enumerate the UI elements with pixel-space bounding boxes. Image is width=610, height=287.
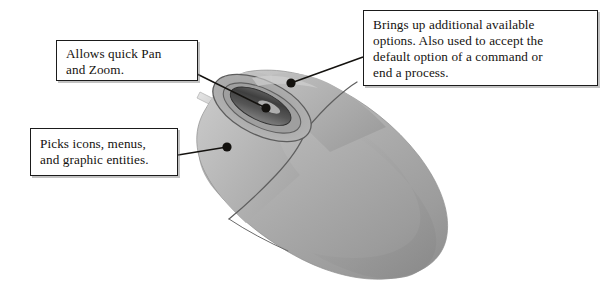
leader-dot-options (286, 78, 295, 87)
leader-dot-pan-zoom (261, 103, 270, 112)
callout-picks-text: Picks icons, menus, and graphic entities… (40, 136, 177, 168)
callout-pan-zoom-text: Allows quick Pan and Zoom. (66, 46, 197, 78)
mouse-functions-figure: Allows quick Pan and Zoom. Picks icons, … (0, 0, 610, 287)
callout-options-text: Brings up additional available options. … (373, 17, 597, 81)
mouse-graphic (197, 60, 448, 279)
leader-line-options (291, 57, 363, 83)
callout-picks: Picks icons, menus, and graphic entities… (30, 128, 178, 176)
leader-dot-picks (222, 142, 231, 151)
callout-pan-zoom: Allows quick Pan and Zoom. (56, 40, 198, 81)
callout-options: Brings up additional available options. … (363, 10, 598, 86)
